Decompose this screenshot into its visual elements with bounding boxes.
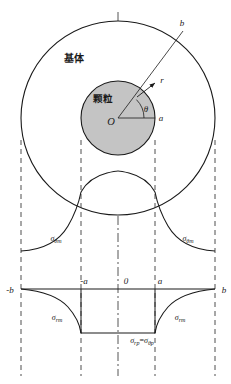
axis-tick-neg-a: -a — [80, 276, 88, 286]
axis-tick-pos-b: b — [222, 285, 227, 295]
radius-b-label: b — [180, 18, 185, 28]
particle-region-label: 颗粒 — [93, 93, 113, 104]
sigma-r-m-curve-left — [21, 289, 81, 333]
axis-tick-zero: 0 — [124, 276, 129, 286]
sigma-theta-m-label-right: σθm — [182, 234, 194, 244]
origin-label: O — [107, 116, 115, 127]
stress-distribution-figure: 基体 颗粒 O θ a r b σθm σθm -b -a 0 a b σrm — [0, 0, 231, 384]
radius-r-label: r — [160, 75, 164, 85]
axis-tick-pos-a: a — [158, 276, 163, 286]
theta-label: θ — [144, 104, 149, 114]
axis-tick-neg-b: -b — [6, 285, 14, 295]
radius-a-label: a — [159, 113, 164, 123]
sigma-r-m-label-right: σrm — [175, 313, 186, 323]
sigma-r-m-label-left: σrm — [52, 313, 63, 323]
matrix-region-label: 基体 — [63, 52, 85, 64]
sigma-rp-equals-sigma-theta-p-label: σrp=σθp — [130, 336, 154, 346]
sigma-r-m-curve-right — [155, 289, 215, 333]
